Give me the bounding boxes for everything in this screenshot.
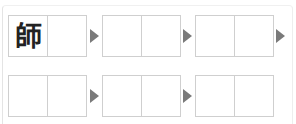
arrow-right-icon bbox=[276, 29, 285, 43]
arrow-right-icon bbox=[183, 89, 192, 103]
practice-box-r2-b3 bbox=[195, 75, 274, 117]
practice-cell[interactable]: 師 bbox=[9, 16, 47, 56]
model-character: 師 bbox=[15, 23, 42, 50]
practice-cell[interactable] bbox=[196, 16, 234, 56]
practice-cell[interactable] bbox=[234, 16, 273, 56]
arrow-right-icon bbox=[90, 89, 99, 103]
practice-cell[interactable] bbox=[103, 16, 141, 56]
practice-box-r2-b2 bbox=[102, 75, 181, 117]
practice-cell[interactable] bbox=[196, 76, 234, 116]
practice-cell[interactable] bbox=[234, 76, 273, 116]
practice-box-r1-b3 bbox=[195, 15, 274, 57]
practice-box-r1-b1: 師 bbox=[8, 15, 87, 57]
practice-cell[interactable] bbox=[47, 16, 86, 56]
practice-cell[interactable] bbox=[47, 76, 86, 116]
practice-cell[interactable] bbox=[141, 16, 180, 56]
practice-box-r2-b1 bbox=[8, 75, 87, 117]
practice-cell[interactable] bbox=[103, 76, 141, 116]
practice-box-r1-b2 bbox=[102, 15, 181, 57]
arrow-right-icon bbox=[90, 29, 99, 43]
practice-cell[interactable] bbox=[141, 76, 180, 116]
practice-cell[interactable] bbox=[9, 76, 47, 116]
arrow-right-icon bbox=[183, 29, 192, 43]
